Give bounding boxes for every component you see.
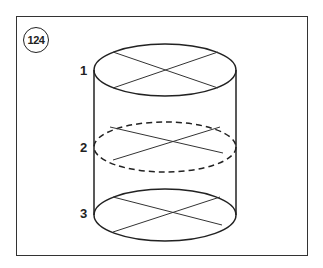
cylinder-diagram xyxy=(0,0,323,268)
middle-ellipse xyxy=(94,122,236,172)
